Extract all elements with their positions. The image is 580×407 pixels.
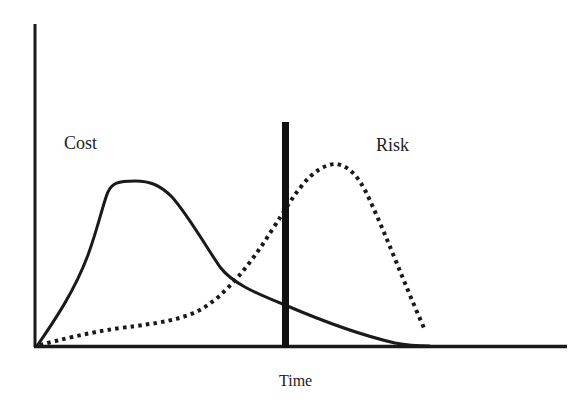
cost-label: Cost bbox=[64, 133, 97, 153]
risk-label: Risk bbox=[376, 135, 409, 155]
risk-curve bbox=[40, 164, 424, 345]
time-marker-line bbox=[282, 122, 289, 348]
cost-risk-diagram: Cost Risk Time bbox=[0, 0, 580, 407]
x-axis-label: Time bbox=[279, 372, 312, 389]
